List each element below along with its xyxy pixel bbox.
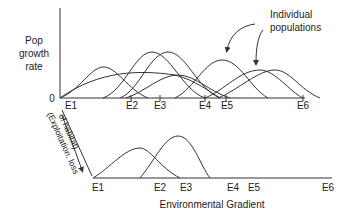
svg-text:E1: E1 xyxy=(65,100,78,111)
side-label: (Exploitation, loss of habitat) xyxy=(45,107,90,176)
svg-text:populations: populations xyxy=(270,22,321,33)
annotation-arrow-2 xyxy=(256,30,263,63)
svg-text:Individual: Individual xyxy=(270,9,312,20)
population-curve-7 xyxy=(218,70,320,98)
population-curves-top xyxy=(60,52,320,98)
population-curve-1 xyxy=(60,67,148,98)
population-curves-bottom xyxy=(93,136,210,178)
svg-text:E4: E4 xyxy=(199,100,212,111)
svg-text:E6: E6 xyxy=(297,100,310,111)
remaining-population-1 xyxy=(93,148,180,178)
population-curve-5 xyxy=(175,60,268,98)
svg-text:E2: E2 xyxy=(126,100,139,111)
svg-text:E3: E3 xyxy=(154,100,167,111)
annotation-label: Individual populations xyxy=(270,9,321,33)
svg-text:E4: E4 xyxy=(227,182,240,193)
remaining-population-2 xyxy=(140,136,210,178)
svg-text:E2: E2 xyxy=(154,182,167,193)
annotation-arrow-1 xyxy=(227,24,255,50)
environmental-gradient-diagram: Pop growth rate 0 Individual populations… xyxy=(0,0,349,221)
y-axis-label: Pop growth rate xyxy=(19,35,49,72)
zero-label: 0 xyxy=(49,93,55,104)
x-axis-label: Environmental Gradient xyxy=(159,199,264,210)
svg-text:growth: growth xyxy=(19,48,49,59)
svg-text:E6: E6 xyxy=(322,182,335,193)
population-curve-3 xyxy=(120,52,220,98)
svg-text:E3: E3 xyxy=(180,182,193,193)
top-tick-labels: E1 E2 E3 E4 E5 E6 xyxy=(65,100,310,111)
svg-text:E5: E5 xyxy=(221,100,234,111)
svg-text:E1: E1 xyxy=(92,182,105,193)
svg-text:rate: rate xyxy=(25,61,43,72)
svg-text:Pop: Pop xyxy=(25,35,43,46)
bottom-tick-labels: E1 E2 E3 E4 E5 E6 xyxy=(92,182,335,193)
svg-text:E5: E5 xyxy=(248,182,261,193)
